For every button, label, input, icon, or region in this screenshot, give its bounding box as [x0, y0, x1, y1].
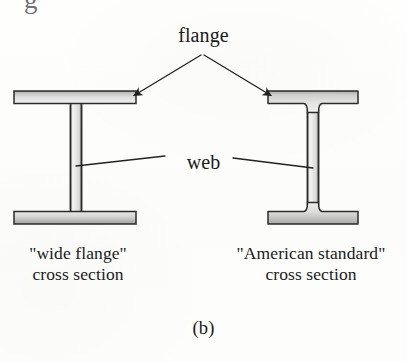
flange-annotation-label: flange	[0, 24, 407, 48]
beam-cross-section-drawing	[0, 0, 407, 362]
figure-letter-label: (b)	[0, 318, 407, 340]
left-beam-caption-line2: cross section	[4, 264, 152, 285]
right-beam-caption: "American standard" cross section	[216, 243, 406, 284]
left-beam-caption: "wide flange" cross section	[4, 243, 152, 284]
right-beam-caption-line2: cross section	[216, 264, 406, 285]
right-beam-bottom-flange	[268, 203, 358, 225]
figure-page: g	[0, 0, 407, 362]
right-beam-top-flange	[268, 91, 358, 113]
flange-leader-left	[134, 55, 201, 96]
left-beam-top-flange	[14, 91, 136, 104]
web-annotation-label: web	[0, 151, 407, 175]
left-beam-bottom-flange	[14, 212, 136, 225]
left-beam-caption-line1: "wide flange"	[4, 243, 152, 264]
flange-leader-right	[204, 55, 271, 96]
right-beam-caption-line1: "American standard"	[216, 243, 406, 264]
